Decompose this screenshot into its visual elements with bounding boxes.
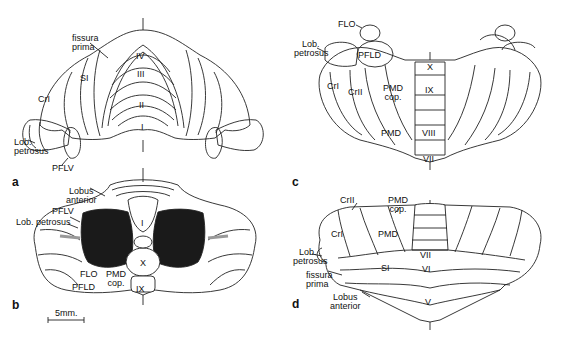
label-crus1-a: CrI — [38, 95, 50, 104]
label-simplex-a: SI — [80, 74, 89, 83]
label-lob-petrosus-a: Lob. petrosus — [14, 138, 49, 156]
label-pflv-a: PFLV — [52, 164, 74, 173]
label-crus2-c: CrII — [348, 88, 363, 97]
label-pflv-b: PFLV — [52, 207, 74, 216]
label-pfld-b: PFLD — [72, 283, 95, 292]
scale-bar-label: 5mm. — [55, 309, 78, 318]
label-fissura-prima-d: fissura prima — [306, 271, 333, 289]
label-line-2: anterior — [330, 302, 361, 311]
label-crus2-d: CrII — [340, 196, 355, 205]
label-pmd-c: PMD — [381, 129, 401, 138]
label-line-2: petrosus — [294, 49, 329, 58]
label-lobule-ix-b: IX — [136, 285, 145, 294]
label-lobule-ix-c: IX — [425, 86, 434, 95]
label-lobule-vii-c: VII — [423, 155, 434, 164]
label-pfld-c: PFLD — [358, 51, 381, 60]
label-line-2: petrosus — [14, 147, 49, 156]
label-simplex-d: SI — [381, 264, 390, 273]
panel-letter-d: d — [292, 297, 299, 311]
label-lobule-i-a: I — [141, 123, 144, 132]
label-fissura-prima-a: fissura prima — [72, 34, 99, 52]
label-crus1-d: CrI — [331, 230, 343, 239]
label-lobule-iii-a: III — [137, 70, 145, 79]
label-lobule-v-d: V — [425, 298, 431, 307]
label-line-2: prima — [72, 43, 99, 52]
label-pmd-d: PMD — [378, 230, 398, 239]
label-lobule-x-c: X — [427, 63, 433, 72]
label-lobule-vi-d: VI — [422, 265, 431, 274]
label-lobule-ii-a: II — [139, 101, 144, 110]
label-pmd-cop-d: PMD cop. — [388, 196, 408, 214]
label-lobule-x-b: X — [140, 259, 146, 268]
panel-a-drawing — [23, 18, 264, 165]
label-lob-petrosus-d: Lob. petrosus — [293, 248, 328, 266]
panel-letter-a: a — [12, 175, 19, 189]
label-lobus-anterior-b: Lobus anterior — [66, 187, 97, 205]
label-lobule-iv-a: IV — [136, 52, 145, 61]
label-lobule-vii-d: VII — [420, 251, 431, 260]
panel-letter-c: c — [292, 175, 299, 189]
label-lob-petrosus-b: Lob. petrosus — [16, 218, 71, 227]
label-lobule-i-b: I — [141, 219, 144, 228]
label-line-2: cop. — [388, 205, 408, 214]
label-line-2: prima — [306, 280, 333, 289]
label-line-2: anterior — [66, 196, 97, 205]
label-line-2: petrosus — [293, 257, 328, 266]
panel-letter-b: b — [12, 298, 19, 312]
panel-c-drawing — [317, 25, 541, 170]
label-flo-c: FLO — [338, 20, 356, 29]
label-lobus-anterior-d: Lobus anterior — [330, 293, 361, 311]
label-line-2: cop. — [383, 93, 403, 102]
label-pmd-cop-c: PMD cop. — [383, 84, 403, 102]
label-crus1-c: CrI — [327, 82, 339, 91]
label-flo-b: FLO — [80, 270, 98, 279]
label-pmd-cop-b: PMD cop. — [106, 270, 126, 288]
label-lobule-viii-c: VIII — [422, 129, 436, 138]
label-line-2: cop. — [106, 279, 126, 288]
label-lob-petrosus-c: Lob. petrosus — [294, 40, 329, 58]
